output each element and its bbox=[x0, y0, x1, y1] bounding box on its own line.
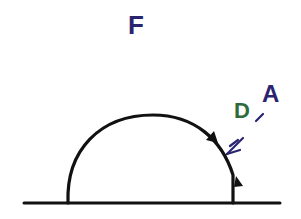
diagram-canvas bbox=[0, 0, 301, 219]
label-a: A bbox=[262, 80, 279, 108]
label-d: D bbox=[234, 98, 250, 124]
arrow-icon bbox=[227, 138, 243, 154]
dash-mark bbox=[256, 114, 263, 121]
triangle-marker-icon bbox=[234, 176, 243, 187]
label-f: F bbox=[128, 10, 144, 41]
dome-arc bbox=[68, 115, 233, 203]
